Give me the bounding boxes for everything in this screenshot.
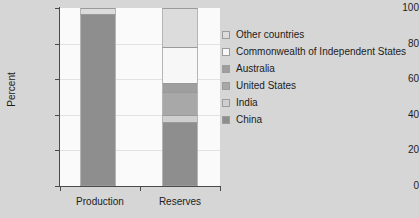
legend-label: India (236, 97, 258, 108)
bar-segment-reserves-australia (162, 83, 198, 92)
plot-area (60, 8, 220, 186)
bar-segment-production-china (80, 14, 116, 186)
x-tick-1 (140, 186, 141, 191)
y-tick-20 (55, 150, 60, 151)
legend-swatch-icon (222, 31, 230, 39)
stacked-bar-chart: Percent 020406080100 ProductionReserves … (0, 0, 419, 218)
y-tick-80 (55, 44, 60, 45)
legend-label: United States (236, 80, 296, 91)
legend-swatch-icon (222, 65, 230, 73)
bar-segment-reserves-commonwealth-of-independent-states (162, 47, 198, 83)
bar-segment-reserves-other-countries (162, 8, 198, 47)
x-tick-2 (220, 186, 221, 191)
legend-label: Commonwealth of Independent States (236, 46, 406, 57)
legend-item-united-states[interactable]: United States (222, 77, 406, 94)
legend-swatch-icon (222, 82, 230, 90)
bar-segment-production-other-countries (80, 8, 116, 14)
legend-swatch-icon (222, 116, 230, 124)
legend-label: Australia (236, 63, 275, 74)
legend-item-other-countries[interactable]: Other countries (222, 26, 406, 43)
bar-production (60, 8, 140, 186)
bar-segment-reserves-india (162, 115, 198, 122)
legend-item-india[interactable]: India (222, 94, 406, 111)
legend-swatch-icon (222, 48, 230, 56)
y-axis-line (59, 7, 60, 187)
y-tick-label-20: 20 (373, 145, 419, 155)
bar-segment-reserves-china (162, 122, 198, 186)
legend: Other countriesCommonwealth of Independe… (222, 26, 406, 128)
legend-swatch-icon (222, 99, 230, 107)
y-tick-60 (55, 79, 60, 80)
legend-item-australia[interactable]: Australia (222, 60, 406, 77)
y-tick-40 (55, 115, 60, 116)
bar-production-segments (80, 8, 116, 186)
x-tick-0 (60, 186, 61, 191)
x-axis-label-reserves: Reserves (135, 196, 225, 207)
legend-item-china[interactable]: China (222, 111, 406, 128)
y-tick-label-0: 0 (373, 181, 419, 191)
bar-reserves-segments (162, 8, 198, 186)
y-tick-100 (55, 8, 60, 9)
legend-label: China (236, 114, 262, 125)
y-axis-title: Percent (6, 53, 17, 127)
x-axis-label-production: Production (55, 196, 145, 207)
bar-segment-reserves-united-states (162, 92, 198, 115)
bar-reserves (140, 8, 220, 186)
y-tick-label-100: 100 (373, 3, 419, 13)
legend-label: Other countries (236, 29, 304, 40)
legend-item-commonwealth-of-independent-states[interactable]: Commonwealth of Independent States (222, 43, 406, 60)
